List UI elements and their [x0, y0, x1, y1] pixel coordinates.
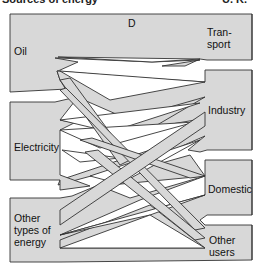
user-label-other-users: Other users — [209, 234, 235, 258]
panel-label: D — [128, 17, 136, 29]
source-label-oil: Oil — [14, 45, 27, 57]
source-label-other-energy: Other types of energy — [14, 212, 51, 248]
user-label-domestic: Domestic — [208, 183, 252, 195]
user-label-transport: Tran- sport — [207, 26, 232, 50]
user-label-industry: Industry — [208, 104, 245, 116]
source-label-electricity: Electricity — [14, 141, 59, 153]
